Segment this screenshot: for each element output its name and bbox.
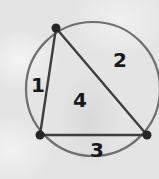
vertex-dot-bottom-right [143, 131, 152, 140]
vertex-dot-bottom-left [36, 131, 45, 140]
region-label-1: 1 [31, 73, 45, 97]
diagram-stage: 1 2 4 3 [0, 0, 159, 179]
region-label-3: 3 [90, 138, 104, 162]
vertex-dot-top [52, 24, 61, 33]
region-label-2: 2 [113, 48, 127, 72]
diagram-svg: 1 2 4 3 [0, 0, 159, 179]
inscribed-triangle [40, 28, 147, 135]
region-label-4: 4 [73, 88, 87, 112]
